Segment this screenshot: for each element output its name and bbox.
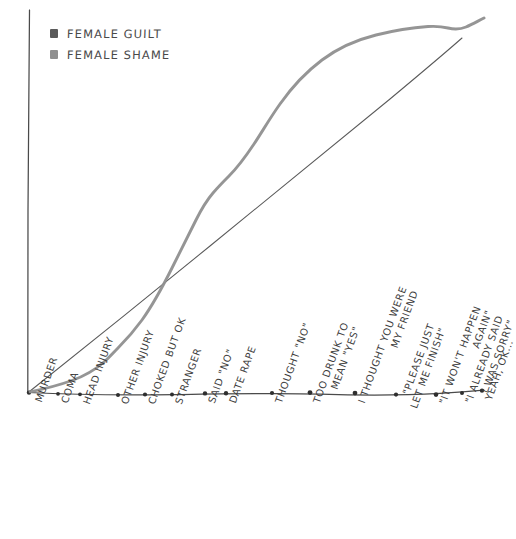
x-tick-dot — [480, 388, 484, 392]
legend-label-female-shame: FEMALE SHAME — [67, 48, 171, 62]
x-tick-dot — [116, 393, 120, 397]
series-line-female-guilt — [30, 38, 463, 392]
legend-label-female-guilt: FEMALE GUILT — [67, 27, 162, 41]
x-tick-dot — [353, 391, 358, 396]
x-tick-dot — [78, 392, 82, 396]
chart-legend: FEMALE GUILT FEMALE SHAME — [50, 24, 250, 66]
legend-item-female-guilt: FEMALE GUILT — [50, 24, 250, 43]
x-axis-line — [28, 390, 484, 395]
x-tick-dot — [270, 391, 274, 395]
x-axis-ticks — [27, 388, 484, 397]
x-tick-dot — [56, 392, 60, 396]
legend-item-female-shame: FEMALE SHAME — [50, 45, 250, 64]
legend-swatch-female-shame — [50, 50, 58, 59]
series-line-female-shame — [30, 18, 484, 392]
x-tick-dot — [170, 392, 174, 396]
legend-swatch-female-guilt — [50, 29, 58, 38]
x-tick-dot — [143, 392, 147, 396]
x-tick-dot — [434, 392, 439, 397]
x-tick-dot — [394, 393, 398, 397]
x-tick-dot — [460, 391, 464, 395]
x-tick-dot — [308, 390, 313, 395]
x-tick-dot — [203, 391, 207, 395]
x-tick-dot — [224, 391, 228, 395]
y-axis-line — [28, 10, 30, 392]
